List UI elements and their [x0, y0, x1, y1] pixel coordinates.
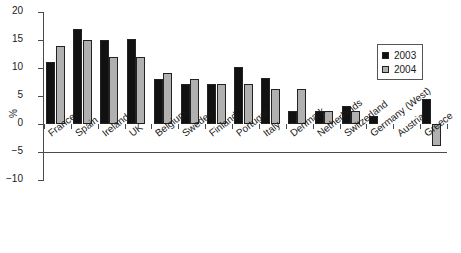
y-tick-label: 20 [12, 5, 23, 16]
bar-ireland-2003 [100, 40, 109, 124]
y-tick-label: 15 [12, 33, 23, 44]
legend-swatch-2003 [382, 52, 389, 59]
bar-belgium-2003 [154, 79, 163, 124]
x-tick [447, 124, 448, 129]
y-tick-label: −10 [6, 173, 23, 184]
bar-uk-2004 [136, 57, 145, 124]
y-tick-label: −5 [12, 145, 23, 156]
bar-france-2003 [46, 62, 55, 124]
legend-label-2004: 2004 [394, 64, 416, 75]
bar-spain-2003 [73, 29, 82, 124]
plot-area [44, 12, 447, 180]
y-tick-label: 10 [12, 61, 23, 72]
bar-france-2004 [56, 46, 65, 124]
y-tick-mark [38, 180, 44, 181]
legend-swatch-2004 [382, 66, 389, 73]
legend-item-2003: 2003 [382, 48, 416, 62]
bar-chart: % 20151050−5−10 FranceSpainIrelandUKBelg… [0, 0, 461, 253]
bar-spain-2004 [83, 40, 92, 124]
bar-ireland-2004 [109, 57, 118, 124]
bar-denmark-2003 [288, 111, 297, 124]
legend-label-2003: 2003 [394, 50, 416, 61]
y-tick-label: 0 [17, 117, 23, 128]
y-tick-label: 5 [17, 89, 23, 100]
legend-item-2004: 2004 [382, 62, 416, 76]
legend: 2003 2004 [377, 44, 423, 80]
bar-uk-2003 [127, 39, 136, 124]
